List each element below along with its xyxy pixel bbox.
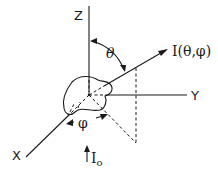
scattered-ray-arrowhead: [158, 49, 168, 56]
incident-intensity-label: Io: [91, 150, 103, 168]
theta-label: θ: [106, 45, 115, 61]
incident-beam-arrowhead: [84, 145, 90, 152]
x-axis-label: X: [12, 148, 21, 163]
theta-arc-arrowhead-start: [90, 38, 97, 44]
phi-arc-arrowhead-right: [100, 114, 108, 120]
projection-xy-plane-dashed: [89, 95, 136, 143]
theta-arc-arrowhead-end: [120, 65, 126, 72]
incident-intensity-subscript: o: [97, 157, 103, 168]
phi-label: φ: [78, 115, 88, 131]
particle-outline: [63, 77, 112, 115]
x-axis: [26, 114, 70, 157]
y-axis-label: Y: [190, 88, 199, 103]
scattering-geometry-diagram: Z Y X I(θ,φ) θ φ Io: [0, 0, 218, 177]
scattered-ray-hidden-segment: [89, 86, 104, 95]
phi-arc-arrowhead-left: [66, 119, 73, 126]
x-axis-hidden-segment: [70, 95, 89, 114]
scattered-intensity-label: I(θ,φ): [172, 43, 211, 59]
z-axis-label: Z: [74, 8, 83, 23]
